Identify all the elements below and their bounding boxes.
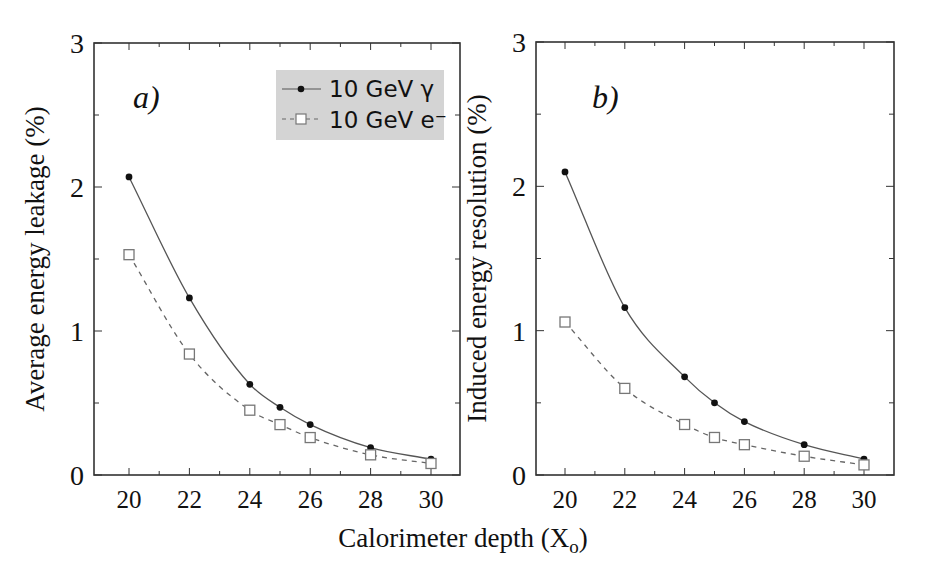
data-point-open-square [245,405,255,415]
data-point-open-square [620,383,630,393]
dashed-fit-curve [129,255,431,464]
x-tick-label: 28 [358,486,383,513]
data-point-filled-circle [621,304,628,311]
data-point-filled-circle [801,441,808,448]
x-tick-label: 26 [298,486,323,513]
data-point-open-square [184,349,194,359]
y-tick-label: 3 [512,27,526,58]
y-tick-label: 1 [512,316,526,347]
data-point-open-square [275,420,285,430]
data-point-filled-circle [246,381,253,388]
x-tick-label: 24 [237,486,263,513]
data-point-filled-circle [186,294,193,301]
y-tick-label: 1 [70,316,84,347]
series-electron [124,250,436,469]
x-tick-label: 22 [612,486,637,513]
data-point-filled-circle [741,418,748,425]
data-point-open-square [799,451,809,461]
x-tick-label: 22 [177,486,202,513]
data-point-filled-circle [562,169,569,176]
solid-fit-curve [565,172,864,459]
y-axis-label: Induced energy resolution (%) [462,94,492,423]
figure: 2022242628300123Average energy leakage (… [0,0,926,583]
data-point-filled-circle [277,404,284,411]
y-tick-label: 3 [70,28,84,59]
series-electron [560,317,869,470]
x-tick-label: 28 [792,486,817,513]
x-tick-label: 30 [419,486,444,513]
data-point-open-square [739,440,749,450]
legend-filled-circle-icon [298,86,305,93]
x-tick-label: 30 [852,486,877,513]
legend-open-square-icon [296,114,306,124]
data-point-open-square [680,419,690,429]
data-point-open-square [366,450,376,460]
data-point-filled-circle [681,373,688,380]
data-point-filled-circle [307,421,314,428]
data-point-open-square [560,317,570,327]
x-tick-label: 20 [117,486,142,513]
plot-frame [536,42,894,475]
legend-label-electron: 10 GeV e⁻ [329,107,447,133]
x-tick-label: 24 [672,486,698,513]
y-tick-label: 2 [70,172,84,203]
series-gamma [562,169,868,463]
data-point-open-square [859,460,869,470]
dashed-fit-curve [565,322,864,465]
y-tick-label: 0 [512,460,526,491]
data-point-filled-circle [711,399,718,406]
panel-label: b) [592,79,619,115]
x-axis-label: Calorimeter depth (Xo) [338,523,587,557]
y-tick-label: 2 [512,171,526,202]
panel-b-resolution: 2022242628300123Induced energy resolutio… [462,27,894,513]
data-point-filled-circle [126,174,133,181]
panel-label: a) [133,79,160,115]
data-point-open-square [710,432,720,442]
legend-label-gamma: 10 GeV γ [329,76,434,102]
solid-fit-curve [129,177,431,459]
x-tick-label: 26 [732,486,757,513]
x-tick-label: 20 [553,486,578,513]
data-point-open-square [124,250,134,260]
y-axis-label: Average energy leakage (%) [20,106,50,412]
data-point-open-square [305,433,315,443]
y-tick-label: 0 [70,460,84,491]
legend: 10 GeV γ 10 GeV e⁻ [276,70,447,140]
data-point-open-square [426,458,436,468]
